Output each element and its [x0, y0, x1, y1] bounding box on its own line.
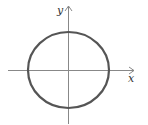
y-axis-label: y: [56, 4, 64, 17]
coordinate-plane: y x: [0, 0, 148, 125]
x-axis-label: x: [128, 72, 135, 85]
